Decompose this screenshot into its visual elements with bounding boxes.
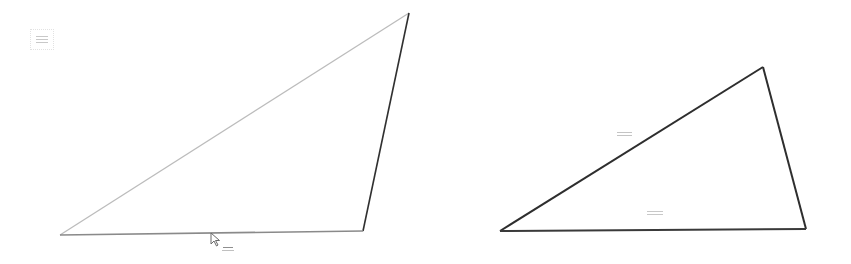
left-triangle-hypotenuse[interactable] — [60, 13, 409, 235]
arrow-cursor-icon — [210, 232, 222, 248]
right-triangle-side-label — [617, 132, 632, 136]
right-triangle-right-side[interactable] — [763, 67, 806, 229]
legend-line — [36, 39, 48, 40]
left-triangle-base-label — [222, 247, 234, 251]
right-triangle-inner-label — [647, 211, 663, 215]
legend-box — [30, 29, 54, 50]
drawing-canvas[interactable] — [0, 0, 851, 264]
legend-line — [36, 42, 48, 43]
right-triangle-left-side[interactable] — [500, 67, 763, 231]
left-triangle[interactable] — [60, 13, 409, 235]
right-triangle-base[interactable] — [500, 229, 806, 231]
left-triangle-right-side[interactable] — [363, 13, 409, 231]
legend-line — [36, 36, 48, 37]
right-triangle[interactable] — [500, 67, 806, 231]
